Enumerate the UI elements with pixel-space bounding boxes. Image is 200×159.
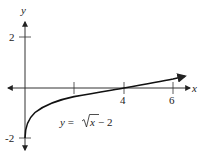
y-axis-label: y (20, 4, 26, 16)
equation-label: y = x − 2 (59, 115, 112, 129)
x-tick-label-6: 6 (169, 94, 175, 106)
y-tick-label-2: 2 (9, 31, 15, 43)
function-curve-clean (25, 76, 185, 138)
svg-text:x: x (89, 116, 95, 128)
svg-text:y =: y = (59, 116, 74, 128)
x-tick-label-4: 4 (120, 94, 126, 106)
x-axis-label: x (191, 82, 197, 94)
svg-text:− 2: − 2 (98, 116, 112, 128)
graph-canvas: 4 6 2 -2 x y y = x − 2 (0, 0, 200, 159)
y-tick-label-neg2: -2 (5, 132, 14, 144)
